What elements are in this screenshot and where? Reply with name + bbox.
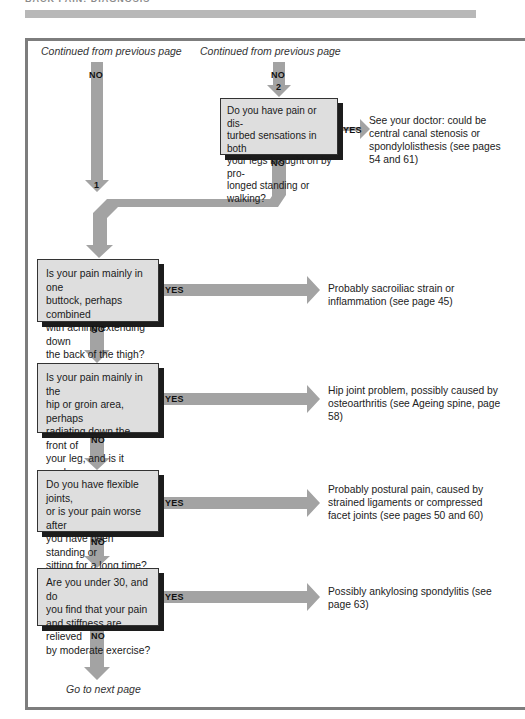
question-box-buttock: Is your pain mainly in one buttock, perh…	[37, 259, 159, 322]
question-line: Do you have pain or dis-	[227, 105, 333, 130]
yes-label-q2: YES	[165, 394, 184, 404]
question-line: longed standing or walking?	[227, 180, 333, 205]
question-line: your legs brought on by pro-	[227, 155, 333, 180]
question-line: Is your pain mainly in one	[46, 267, 152, 294]
question-line: or is your pain worse after	[46, 505, 152, 532]
no-label-q4: NO	[91, 631, 105, 641]
yes-label-q3: YES	[165, 498, 184, 508]
question-line: hip or groin area, perhaps	[46, 398, 152, 425]
no-label-q2: NO	[91, 435, 105, 445]
question-line: you find that your pain	[46, 603, 152, 617]
arrow-left-top	[85, 62, 109, 192]
yes-label-q0: YES	[343, 125, 362, 135]
question-box-under-30: Are you under 30, and do you find that y…	[37, 568, 159, 626]
yes-label-q4: YES	[165, 592, 184, 602]
question-box-legs: Do you have pain or dis- turbed sensatio…	[220, 98, 338, 155]
result-q4: Possibly ankylosing spondylitis (see pag…	[328, 585, 503, 611]
question-box-flexible-joints: Do you have flexible joints, or is your …	[37, 470, 159, 532]
no-label-q3: NO	[91, 537, 105, 547]
no-label-right-top: NO	[271, 70, 285, 80]
yes-label-q1: YES	[165, 285, 184, 295]
result-q3: Probably postural pain, caused by strain…	[328, 483, 503, 522]
question-line: turbed sensations in both	[227, 130, 333, 155]
go-to-next-page-label: Go to next page	[66, 683, 141, 695]
question-line: buttock, perhaps combined	[46, 294, 152, 321]
result-q1: Probably sacroiliac strain or inflammati…	[328, 282, 503, 308]
no-label-left-top: NO	[89, 70, 103, 80]
question-box-hip: Is your pain mainly in the hip or groin …	[37, 363, 159, 433]
question-line: Is your pain mainly in the	[46, 371, 152, 398]
connector-1-label: 1	[94, 180, 99, 190]
result-q2: Hip joint problem, possibly caused by os…	[328, 384, 503, 423]
question-line: by moderate exercise?	[46, 644, 152, 658]
question-line: the back of the thigh?	[46, 348, 152, 362]
result-q0: See your doctor: could be central canal …	[369, 114, 504, 166]
no-label-q1: NO	[91, 324, 105, 334]
question-line: Do you have flexible joints,	[46, 478, 152, 505]
connector-2-label: 2	[276, 82, 281, 92]
question-line: Are you under 30, and do	[46, 576, 152, 603]
